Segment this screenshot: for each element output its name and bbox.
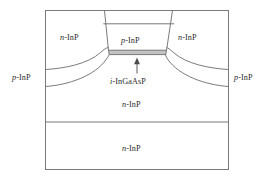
label-mesa-top-suffix: -InP: [125, 36, 140, 45]
device-cross-section-figure: n-InP n-InP p-InP p-InP p-InP i-InGaAsP …: [0, 0, 273, 180]
label-bottom-substrate-region: n-InP: [122, 145, 141, 153]
label-upper-right-suffix: -InP: [182, 33, 197, 42]
label-right-edge-region: p-InP: [234, 74, 253, 82]
label-active-suffix: -InGaAsP: [112, 77, 146, 86]
label-bottom-substrate-suffix: -InP: [126, 144, 141, 153]
label-active-region: i-InGaAsP: [110, 78, 146, 86]
label-upper-left-suffix: -InP: [64, 33, 79, 42]
label-middle-substrate-region: n-InP: [122, 101, 141, 109]
label-upper-left-region: n-InP: [60, 34, 79, 42]
label-middle-substrate-suffix: -InP: [126, 100, 141, 109]
active-layer-band: [109, 50, 167, 54]
label-left-edge-suffix: -InP: [16, 73, 31, 82]
label-left-edge-region: p-InP: [12, 74, 31, 82]
label-upper-right-region: n-InP: [178, 34, 197, 42]
label-mesa-top-region: p-InP: [121, 37, 140, 45]
label-right-edge-suffix: -InP: [238, 73, 253, 82]
